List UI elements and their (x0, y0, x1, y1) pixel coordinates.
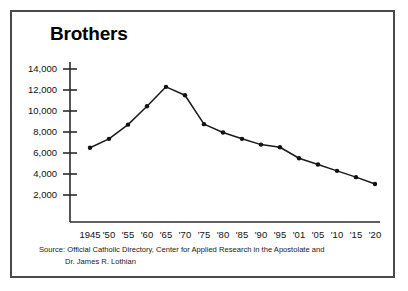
x-tick-label: '95 (274, 229, 286, 240)
x-tick-label: '50 (103, 229, 115, 240)
data-point (373, 182, 377, 186)
y-tick-label: 6,000 (33, 147, 57, 158)
x-tick-label: 1945 (79, 229, 100, 240)
data-point (259, 142, 263, 146)
data-point (354, 175, 358, 179)
y-tick-label: 14,000 (28, 63, 57, 74)
data-point (145, 104, 149, 108)
data-point (278, 145, 282, 149)
chart-figure: Brothers 14,00012,00010,0008,0006,0004,0… (10, 10, 395, 278)
data-point (221, 130, 225, 134)
x-tick-label: '75 (198, 229, 210, 240)
x-tick-label: '85 (236, 229, 248, 240)
data-point (240, 137, 244, 141)
y-tick-label: 4,000 (33, 168, 57, 179)
x-tick-label: '01 (293, 229, 305, 240)
data-point (88, 146, 92, 150)
x-tick-label: '60 (141, 229, 153, 240)
x-tick-label: '90 (255, 229, 267, 240)
source-line-2: Dr. James R. Lothian (39, 256, 379, 268)
data-point (335, 169, 339, 173)
data-point (183, 93, 187, 97)
source-note: Source: Official Catholic Directory, Cen… (39, 244, 379, 268)
x-tick-label: '65 (160, 229, 172, 240)
data-point (164, 85, 168, 89)
x-tick-label: '15 (350, 229, 362, 240)
x-tick-label: '70 (179, 229, 191, 240)
source-line-1: Source: Official Catholic Directory, Cen… (39, 245, 324, 254)
y-tick-label: 12,000 (28, 84, 57, 95)
data-series-line (90, 87, 375, 184)
y-tick-label: 8,000 (33, 126, 57, 137)
data-point (107, 137, 111, 141)
y-tick-label: 10,000 (28, 105, 57, 116)
y-tick-label: 2,000 (33, 189, 57, 200)
data-point (202, 122, 206, 126)
x-axis-tick-labels: 1945'50'55'60'65'70'75'80'85'90'95'01'05… (79, 229, 381, 240)
data-point (126, 122, 130, 126)
x-tick-label: '55 (122, 229, 134, 240)
data-point (316, 162, 320, 166)
y-axis-tick-labels: 14,00012,00010,0008,0006,0004,0002,000 (28, 63, 57, 200)
x-tick-label: '05 (312, 229, 324, 240)
x-tick-label: '80 (217, 229, 229, 240)
x-tick-label: '10 (331, 229, 343, 240)
data-point (297, 156, 301, 160)
x-tick-label: '20 (369, 229, 381, 240)
line-chart-plot: 14,00012,00010,0008,0006,0004,0002,000 1… (12, 12, 397, 280)
